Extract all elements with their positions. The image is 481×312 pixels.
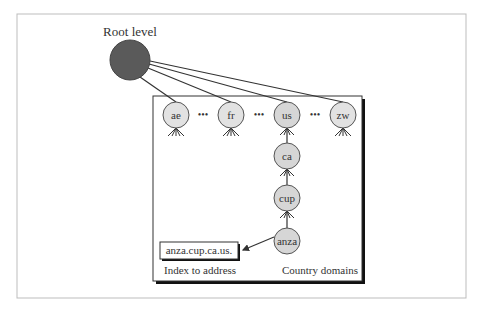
ellipsis-2: •••	[254, 109, 265, 120]
ellipsis-1: •••	[198, 109, 209, 120]
node-fr-label: fr	[227, 109, 235, 121]
node-ca-label: ca	[282, 150, 292, 162]
root-node[interactable]	[110, 40, 150, 80]
node-anza-label: anza	[277, 235, 297, 247]
dns-diagram: Root level ae fr us zw ca cup anza ••• •…	[0, 0, 481, 312]
node-ae-label: ae	[171, 109, 181, 121]
root-level-label: Root level	[103, 24, 157, 39]
country-domains-caption: Country domains	[282, 264, 358, 276]
address-label: anza.cup.ca.us.	[166, 244, 233, 256]
node-us-label: us	[282, 109, 292, 121]
node-cup-label: cup	[279, 192, 295, 204]
ellipsis-3: •••	[310, 109, 321, 120]
index-caption: Index to address	[164, 264, 236, 276]
node-zw-label: zw	[337, 109, 350, 121]
